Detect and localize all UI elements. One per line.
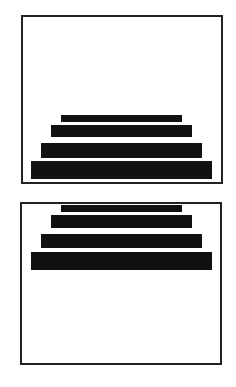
pyramid-bar-tier-1 xyxy=(61,205,182,212)
bottom-aligned-pyramid-panel xyxy=(21,15,223,184)
pyramid-bar-tier-1 xyxy=(61,115,182,122)
top-aligned-pyramid-panel xyxy=(20,202,222,365)
pyramid-bar-tier-2 xyxy=(51,125,192,137)
pyramid-bar-tier-3 xyxy=(41,143,202,158)
pyramid-bar-tier-4 xyxy=(31,252,212,270)
pyramid-bar-tier-2 xyxy=(51,215,192,228)
pyramid-bar-tier-4 xyxy=(31,161,212,179)
pyramid-bar-tier-3 xyxy=(41,234,202,248)
